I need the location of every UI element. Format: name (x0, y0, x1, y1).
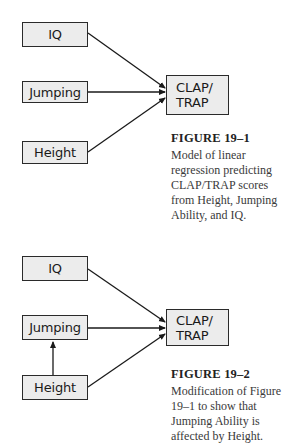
node-clap-trap-line2: TRAP (176, 328, 213, 343)
node-clap-trap-line2: TRAP (176, 95, 213, 110)
figure-caption-title: FIGURE 19–2 (171, 367, 293, 382)
figure-19-1: IQ Jumping Height CLAP/ TRAP FIGURE 19–1… (0, 0, 295, 221)
figure-caption: FIGURE 19–1 Model of linear regression p… (171, 131, 293, 223)
figure-caption: FIGURE 19–2 Modification of Figure 19–1 … (171, 367, 293, 444)
node-jumping: Jumping (22, 81, 88, 103)
figure-19-2: IQ Jumping Height CLAP/ TRAP FIGURE 19–2… (0, 234, 295, 447)
node-jumping-label: Jumping (29, 85, 81, 100)
figure-caption-body: Modification of Figure 19–1 to show that… (171, 384, 293, 444)
node-clap-trap-line1: CLAP/ (176, 80, 213, 95)
arrow-height-to-clap-trap (88, 334, 165, 387)
node-height: Height (22, 141, 88, 164)
node-iq: IQ (22, 22, 88, 47)
node-iq-label: IQ (48, 261, 62, 276)
figure-caption-title: FIGURE 19–1 (171, 131, 293, 146)
node-iq: IQ (22, 256, 88, 281)
arrow-height-to-clap-trap (88, 98, 165, 152)
figure-caption-body: Model of linear regression predicting CL… (171, 148, 293, 223)
node-clap-trap: CLAP/ TRAP (166, 309, 229, 346)
node-iq-label: IQ (48, 27, 62, 42)
node-height-label: Height (34, 380, 76, 395)
arrow-iq-to-clap-trap (88, 269, 165, 322)
node-jumping-label: Jumping (29, 320, 81, 335)
node-height: Height (22, 375, 88, 400)
node-clap-trap: CLAP/ TRAP (166, 75, 229, 115)
node-height-label: Height (34, 145, 76, 160)
node-clap-trap-line1: CLAP/ (176, 313, 213, 328)
arrow-iq-to-clap-trap (88, 33, 165, 88)
node-jumping: Jumping (22, 315, 88, 340)
